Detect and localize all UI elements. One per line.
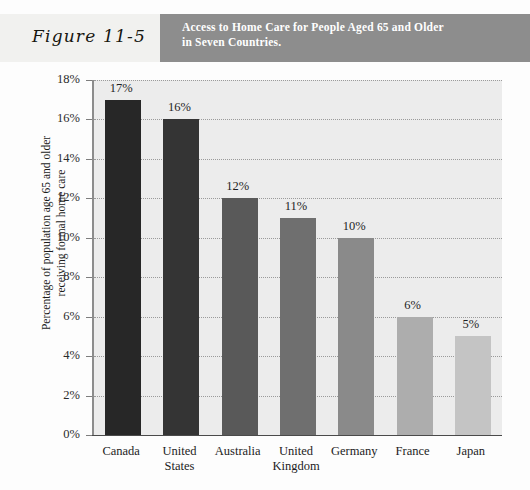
figure-title-block: Access to Home Care for People Aged 65 a… [160, 14, 530, 62]
bar-value-label: 17% [91, 81, 151, 96]
x-axis-label-word: France [396, 444, 430, 458]
y-axis-tick-label: 14% [10, 151, 80, 166]
bar [222, 198, 258, 435]
x-axis-label-word: United [279, 444, 313, 458]
y-axis-tick-label: 8% [10, 269, 80, 284]
y-axis-tick-label: 6% [10, 309, 80, 324]
gridline [94, 159, 502, 160]
y-axis-tick-label: 18% [10, 72, 80, 87]
bar-value-label: 11% [266, 199, 326, 214]
x-axis-label-word: Kingdom [272, 459, 319, 473]
x-axis-label-word: Japan [457, 444, 485, 458]
gridline [94, 80, 502, 81]
bar [455, 336, 491, 435]
y-axis-tick-label: 2% [10, 388, 80, 403]
y-axis-tick-label: 0% [10, 427, 80, 442]
y-axis-tick-label: 16% [10, 111, 80, 126]
figure-page: Figure 11-5 Access to Home Care for Peop… [0, 0, 530, 490]
figure-title-line-2: in Seven Countries. [182, 36, 281, 48]
bar-value-label: 6% [383, 298, 443, 313]
x-axis-label-word: United [162, 444, 196, 458]
bar [105, 100, 141, 435]
bar [280, 218, 316, 435]
plot-area [92, 80, 502, 435]
x-axis-line [92, 435, 502, 436]
figure-number-label: Figure 11-5 [32, 26, 146, 46]
bar-value-label: 5% [441, 317, 501, 332]
figure-title: Access to Home Care for People Aged 65 a… [182, 20, 520, 50]
x-axis-label: Japan [427, 444, 515, 459]
bar-chart: Percentage of population age 65 and olde… [8, 68, 516, 476]
figure-title-line-1: Access to Home Care for People Aged 65 a… [182, 21, 444, 33]
y-axis-tick-label: 12% [10, 190, 80, 205]
x-axis-label-word: Canada [102, 444, 139, 458]
bar-value-label: 16% [149, 100, 209, 115]
gridline [94, 119, 502, 120]
bar [397, 317, 433, 435]
x-axis-label-word: States [164, 459, 194, 473]
y-axis-tick-label: 4% [10, 348, 80, 363]
bar-value-label: 10% [324, 219, 384, 234]
bar [338, 238, 374, 435]
y-axis-tick-label: 10% [10, 230, 80, 245]
bar [163, 119, 199, 435]
bar-value-label: 12% [208, 179, 268, 194]
